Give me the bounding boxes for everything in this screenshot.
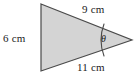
side-label-bottom: 11 cm — [77, 62, 105, 73]
side-label-left: 6 cm — [3, 33, 26, 44]
side-label-top: 9 cm — [82, 4, 105, 15]
angle-label-theta: θ — [101, 34, 106, 44]
geometry-figure: 6 cm 9 cm 11 cm θ — [0, 0, 138, 78]
